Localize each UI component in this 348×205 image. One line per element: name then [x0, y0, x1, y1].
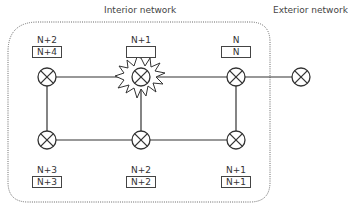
node-label-bot-mid: N+2: [131, 165, 151, 175]
node-label-top-mid: N+1: [131, 35, 151, 45]
node-box-top-left: N+4: [32, 46, 62, 58]
node-label-bot-left: N+3: [37, 165, 57, 175]
node-label-top-right: N: [233, 35, 240, 45]
interior-network-title: Interior network: [104, 5, 176, 15]
node-label-bot-right: N+1: [226, 165, 246, 175]
node-label-top-left: N+2: [37, 35, 57, 45]
node-box-top-right: N: [221, 46, 251, 58]
node-box-top-mid: [126, 46, 156, 58]
node-box-bot-left: N+3: [32, 176, 62, 188]
exterior-network-title: Exterior network: [273, 5, 348, 15]
node-box-bot-right: N+1: [221, 176, 251, 188]
router-cross-circle-icon: [38, 68, 310, 149]
links: [47, 77, 301, 140]
node-box-bot-mid: N+2: [126, 176, 156, 188]
